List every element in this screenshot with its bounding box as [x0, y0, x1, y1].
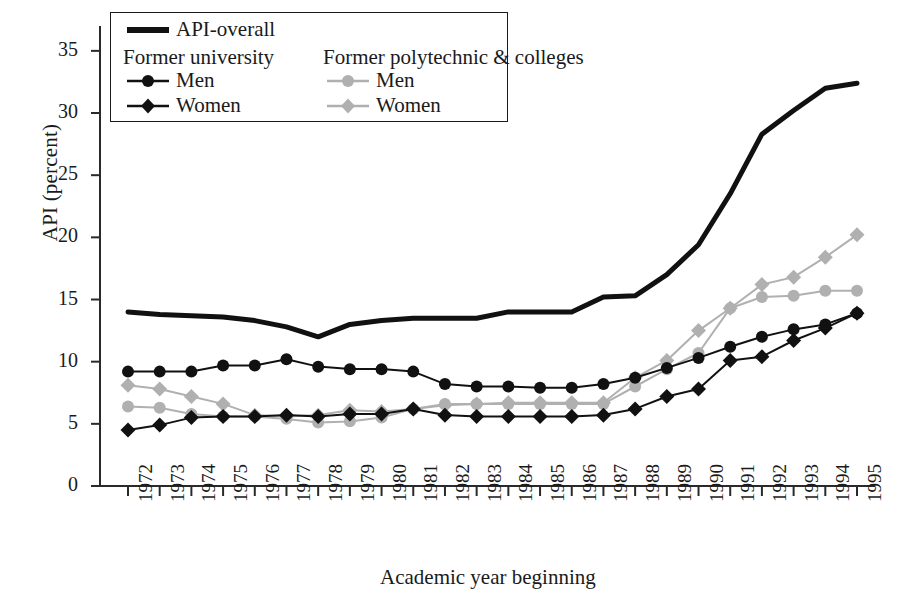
x-tick-label: 1985: [547, 464, 569, 502]
x-tick-label: 1988: [642, 464, 664, 502]
x-tick-label: 1975: [230, 464, 252, 502]
line-circle-marker-icon: [125, 72, 171, 90]
line-swatch-icon: [125, 21, 171, 39]
y-tick-label: 35: [38, 38, 78, 61]
y-tick-label: 15: [38, 287, 78, 310]
x-tick-label: 1973: [167, 464, 189, 502]
line-diamond-marker-light-icon: [325, 97, 371, 115]
x-tick-label: 1983: [484, 464, 506, 502]
x-tick-label: 1987: [610, 464, 632, 502]
x-tick-label: 1977: [293, 464, 315, 502]
chart-legend: API-overall Former university Men Women …: [110, 12, 508, 122]
legend-label-university-women: Women: [176, 93, 241, 118]
x-tick-label: 1980: [389, 464, 411, 502]
x-tick-label: 1982: [452, 464, 474, 502]
x-tick-label: 1995: [864, 464, 886, 502]
legend-label-polytechnic-men: Men: [376, 68, 415, 93]
x-tick-label: 1974: [198, 464, 220, 502]
legend-heading-former-university: Former university: [123, 45, 274, 70]
legend-heading-former-polytechnic: Former polytechnic & colleges: [323, 45, 584, 70]
legend-item-polytechnic-men: Men: [325, 68, 415, 93]
x-tick-label: 1981: [420, 464, 442, 502]
legend-item-polytechnic-women: Women: [325, 93, 441, 118]
x-tick-label: 1993: [801, 464, 823, 502]
line-circle-marker-light-icon: [325, 72, 371, 90]
data-series: [121, 83, 865, 437]
y-tick-label: 25: [38, 162, 78, 185]
series-women: [121, 227, 865, 424]
x-tick-label: 1979: [357, 464, 379, 502]
line-diamond-marker-icon: [125, 97, 171, 115]
x-tick-label: 1990: [706, 464, 728, 502]
x-tick-label: 1991: [737, 464, 759, 502]
legend-label-university-men: Men: [176, 68, 215, 93]
x-tick-label: 1994: [832, 464, 854, 502]
legend-item-university-women: Women: [125, 93, 241, 118]
x-tick-label: 1989: [674, 464, 696, 502]
chart-figure: API (percent) Academic year beginning 05…: [0, 0, 903, 603]
x-tick-label: 1992: [769, 464, 791, 502]
legend-item-api-overall: API-overall: [125, 17, 275, 42]
y-tick-label: 5: [38, 411, 78, 434]
x-tick-label: 1978: [325, 464, 347, 502]
x-tick-label: 1986: [579, 464, 601, 502]
x-tick-label: 1984: [515, 464, 537, 502]
series-women: [121, 306, 865, 438]
y-tick-label: 0: [38, 473, 78, 496]
y-tick-label: 30: [38, 100, 78, 123]
legend-label-polytechnic-women: Women: [376, 93, 441, 118]
x-axis-title: Academic year beginning: [380, 565, 596, 590]
x-tick-label: 1976: [262, 464, 284, 502]
x-tick-label: 1972: [135, 464, 157, 502]
y-tick-label: 20: [38, 224, 78, 247]
legend-item-university-men: Men: [125, 68, 215, 93]
legend-label-api-overall: API-overall: [176, 17, 275, 42]
y-tick-label: 10: [38, 349, 78, 372]
